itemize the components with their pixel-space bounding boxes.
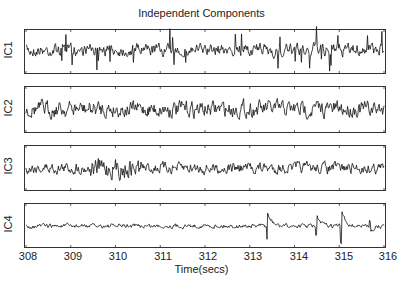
xtick-314: 314 (284, 250, 314, 262)
xtick-310: 310 (103, 250, 133, 262)
xtick-315: 315 (329, 250, 359, 262)
xtick-309: 309 (58, 250, 88, 262)
xtick-311: 311 (148, 250, 178, 262)
signal-traces (0, 0, 403, 285)
xtick-313: 313 (238, 250, 268, 262)
x-axis-label: Time(secs) (0, 263, 403, 275)
xtick-312: 312 (193, 250, 223, 262)
xtick-308: 308 (13, 250, 43, 262)
xtick-316: 316 (373, 250, 403, 262)
